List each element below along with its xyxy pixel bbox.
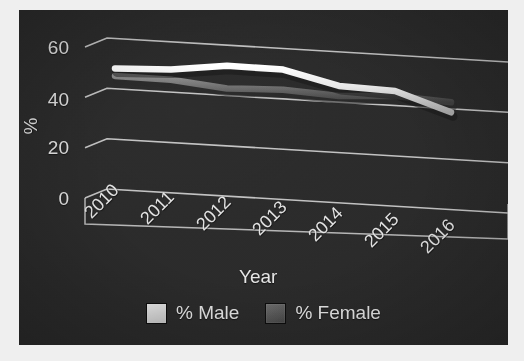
legend-label-female: % Female <box>295 302 381 324</box>
chart-plot-frame: 60 40 20 0 % 2010 2011 2012 2013 2014 20… <box>19 10 508 345</box>
legend-item-female[interactable]: % Female <box>265 302 381 324</box>
legend-item-male[interactable]: % Male <box>146 302 239 324</box>
y-tick-label-40: 40 <box>25 90 69 109</box>
chart-legend: % Male % Female <box>19 302 508 324</box>
chart-page: 60 40 20 0 % 2010 2011 2012 2013 2014 20… <box>0 0 524 361</box>
chart-canvas <box>19 10 508 345</box>
legend-label-male: % Male <box>176 302 239 324</box>
y-tick-label-20: 20 <box>25 138 69 157</box>
y-tick-label-60: 60 <box>25 38 69 57</box>
x-axis-title: Year <box>239 266 277 288</box>
y-tick-label-0: 0 <box>25 189 69 208</box>
legend-swatch-male <box>146 303 167 324</box>
legend-swatch-female <box>265 303 286 324</box>
y-axis-title: % <box>20 118 42 135</box>
chart-gridlines <box>85 38 508 213</box>
